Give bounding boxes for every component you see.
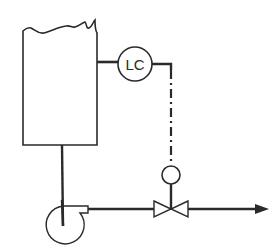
- level-controller: LC: [118, 47, 152, 81]
- level-control-diagram: LC: [0, 0, 280, 249]
- flow-arrow-icon: [255, 204, 269, 214]
- level-controller-label: LC: [125, 56, 144, 73]
- centrifugal-pump-icon: [46, 200, 88, 244]
- tank: [23, 20, 97, 145]
- controller-output-line: [152, 64, 171, 70]
- valve-actuator-icon: [162, 166, 180, 184]
